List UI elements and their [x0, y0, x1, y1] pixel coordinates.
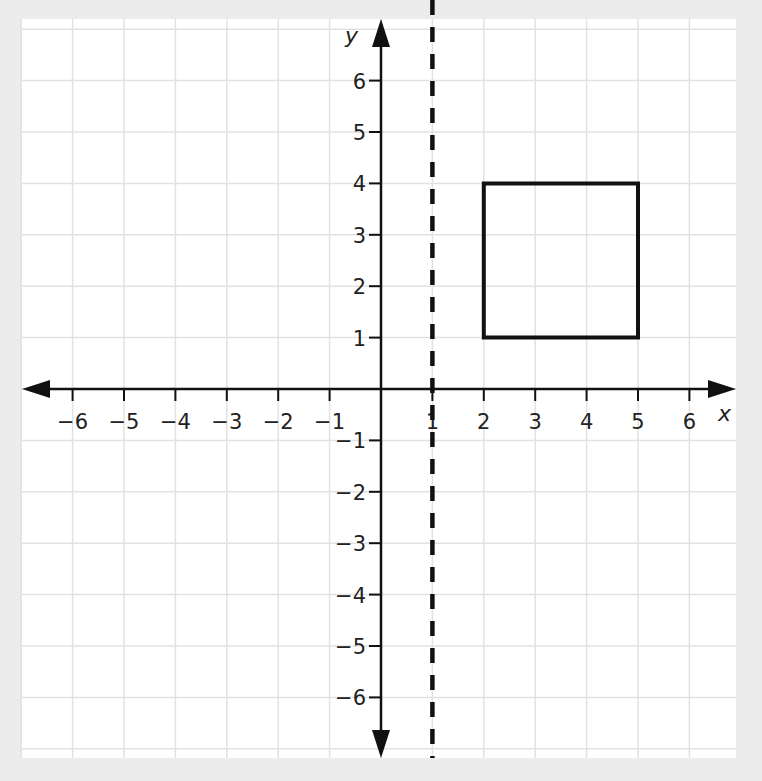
y-tick-label: −4 [335, 584, 366, 608]
x-tick-label: 2 [477, 410, 490, 434]
x-axis-label: x [717, 401, 732, 426]
x-tick-label: −4 [160, 410, 191, 434]
y-tick-label: −2 [335, 481, 366, 505]
x-tick-label: −6 [57, 410, 88, 434]
y-tick-label: 3 [353, 224, 366, 248]
x-tick-label: 4 [580, 410, 593, 434]
x-tick-label: −3 [211, 410, 242, 434]
y-tick-label: 5 [353, 121, 366, 145]
y-tick-label: 6 [353, 70, 366, 94]
x-tick-label: −2 [263, 410, 294, 434]
x-tick-label: 6 [683, 410, 696, 434]
y-axis-label: y [344, 23, 359, 48]
x-tick-label: 3 [529, 410, 542, 434]
y-tick-label: −5 [335, 635, 366, 659]
coordinate-plane: −6−5−4−3−2−1123456 −6−5−4−3−2−1123456 x … [0, 0, 762, 781]
y-tick-label: 2 [353, 275, 366, 299]
y-tick-label: −1 [335, 429, 366, 453]
y-tick-label: 4 [353, 172, 366, 196]
x-tick-label: −5 [109, 410, 140, 434]
x-tick-label: 5 [631, 410, 644, 434]
y-tick-label: −6 [335, 686, 366, 710]
y-tick-label: −3 [335, 532, 366, 556]
y-tick-label: 1 [353, 327, 366, 351]
